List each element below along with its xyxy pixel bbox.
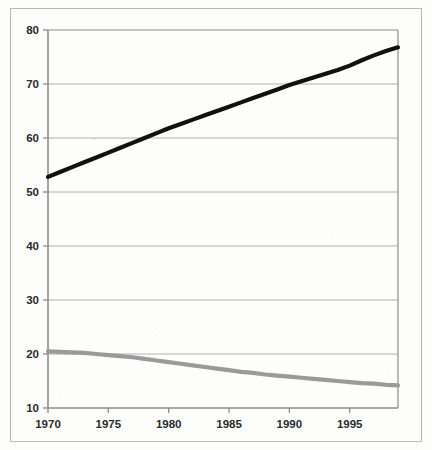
- y-tick-label-10: 10: [26, 402, 39, 414]
- line-chart: 1020304050607080 19701975198019851990199…: [0, 0, 432, 450]
- y-tick-label-50: 50: [26, 186, 39, 198]
- y-tick-label-70: 70: [26, 78, 39, 90]
- x-tick-label-1970: 1970: [35, 418, 61, 430]
- y-tick-label-20: 20: [26, 348, 39, 360]
- plot-right-edge: [48, 30, 398, 408]
- gridlines: [48, 30, 398, 354]
- y-tick-label-40: 40: [26, 240, 39, 252]
- x-tick-label-1980: 1980: [156, 418, 182, 430]
- y-tick-label-30: 30: [26, 294, 39, 306]
- data-series-group: [48, 47, 398, 385]
- x-tick-labels: 197019751980198519901995: [35, 418, 363, 430]
- y-tick-label-60: 60: [26, 132, 39, 144]
- x-tick-label-1995: 1995: [337, 418, 363, 430]
- series-line-upper-series: [48, 47, 398, 177]
- x-tick-label-1975: 1975: [96, 418, 122, 430]
- chart-canvas: 1020304050607080 19701975198019851990199…: [0, 0, 432, 450]
- x-tick-label-1985: 1985: [216, 418, 242, 430]
- x-tick-label-1990: 1990: [277, 418, 303, 430]
- y-tick-labels: 1020304050607080: [26, 24, 39, 414]
- series-line-lower-series: [48, 351, 398, 385]
- y-tick-label-80: 80: [26, 24, 39, 36]
